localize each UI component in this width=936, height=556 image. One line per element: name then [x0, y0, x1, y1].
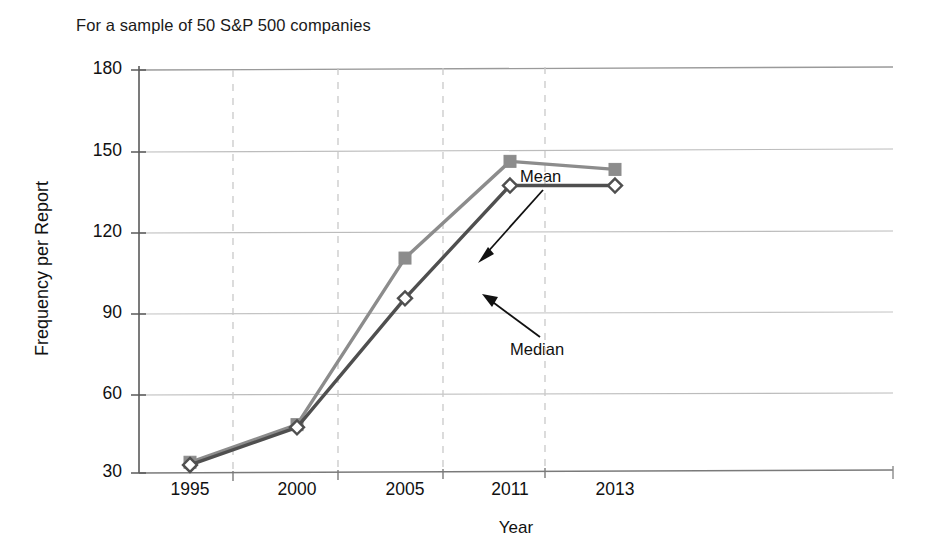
plot-area	[0, 0, 936, 556]
grid-horizontal	[139, 67, 893, 395]
series-line-mean	[190, 161, 615, 462]
grid-vertical-dashed	[233, 67, 545, 472]
data-point-mean-2013	[609, 163, 621, 175]
data-point-mean-2005	[399, 252, 411, 264]
data-point-median-2013	[608, 179, 622, 193]
chart-figure: For a sample of 50 S&P 500 companies Fre…	[0, 0, 936, 556]
annotation-arrow-median	[482, 294, 540, 337]
series-line-median	[190, 186, 615, 465]
data-point-mean-2011	[504, 155, 516, 167]
axis-lines	[139, 66, 893, 479]
annotation-arrow-mean	[478, 190, 543, 263]
